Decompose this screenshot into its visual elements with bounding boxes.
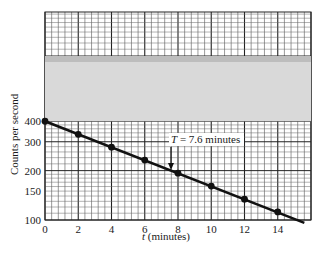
data-point	[241, 196, 248, 203]
y-tick-label: 200	[25, 165, 42, 177]
data-point	[208, 183, 215, 190]
x-axis-label: t (minutes)	[142, 230, 190, 243]
y-axis-label: Counts per second	[8, 93, 20, 175]
x-tick-label: 10	[206, 223, 218, 235]
y-axis-ticks: 100150200300400	[25, 115, 42, 226]
x-tick-label: 12	[239, 223, 250, 235]
y-tick-label: 300	[25, 136, 42, 148]
y-tick-label: 150	[25, 185, 42, 197]
data-point	[175, 170, 182, 177]
data-point	[141, 157, 148, 164]
x-tick-label: 2	[76, 223, 82, 235]
data-point	[42, 118, 49, 125]
y-tick-label: 400	[25, 115, 42, 127]
svg-text:T = 7.6 minutes: T = 7.6 minutes	[171, 133, 240, 145]
x-tick-label: 14	[272, 223, 284, 235]
x-tick-label: 4	[109, 223, 115, 235]
dense-grid-band	[45, 56, 311, 121]
x-tick-label: 0	[42, 223, 48, 235]
data-point	[75, 131, 82, 138]
half-life-annotation: T = 7.6 minutes	[168, 133, 244, 170]
data-point	[274, 209, 281, 216]
semi-log-chart: 100150200300400 02468101214 T = 7.6 minu…	[0, 0, 319, 254]
data-point	[108, 144, 115, 151]
y-tick-label: 100	[25, 214, 42, 226]
